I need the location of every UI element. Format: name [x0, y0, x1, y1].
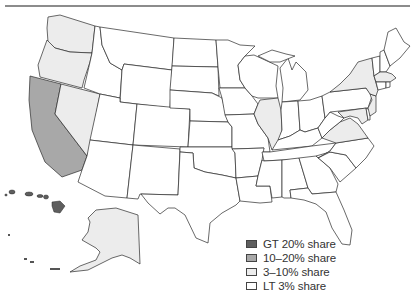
- state-hi[interactable]: [5, 190, 65, 213]
- legend-item-10-20: 10–20% share: [246, 251, 336, 264]
- state-mt[interactable]: [100, 27, 174, 70]
- legend-label: GT 20% share: [263, 238, 336, 250]
- legend-label: 10–20% share: [263, 252, 336, 264]
- state-nm[interactable]: [127, 145, 180, 199]
- state-mi[interactable]: [280, 58, 308, 102]
- legend-swatch-gt20: [246, 240, 257, 248]
- state-ak[interactable]: [70, 208, 140, 272]
- state-wy[interactable]: [120, 64, 172, 108]
- legend-item-gt20: GT 20% share: [246, 237, 336, 250]
- legend-label: LT 3% share: [263, 280, 326, 292]
- legend-swatch-10-20: [246, 254, 257, 262]
- state-ri[interactable]: [386, 82, 390, 88]
- legend-swatch-lt3: [246, 282, 257, 290]
- alaska-islands: [8, 234, 60, 270]
- map-legend: GT 20% share 10–20% share 3–10% share LT…: [246, 237, 336, 293]
- legend-label: 3–10% share: [263, 266, 330, 278]
- state-ks[interactable]: [188, 121, 232, 147]
- us-map: [0, 0, 417, 295]
- state-co[interactable]: [133, 104, 190, 147]
- legend-item-lt3: LT 3% share: [246, 279, 336, 292]
- state-me[interactable]: [384, 28, 410, 66]
- legend-item-3-10: 3–10% share: [246, 265, 336, 278]
- state-ma[interactable]: [374, 72, 396, 82]
- legend-swatch-3-10: [246, 268, 257, 276]
- state-ct[interactable]: [376, 82, 386, 90]
- state-nd[interactable]: [172, 38, 218, 67]
